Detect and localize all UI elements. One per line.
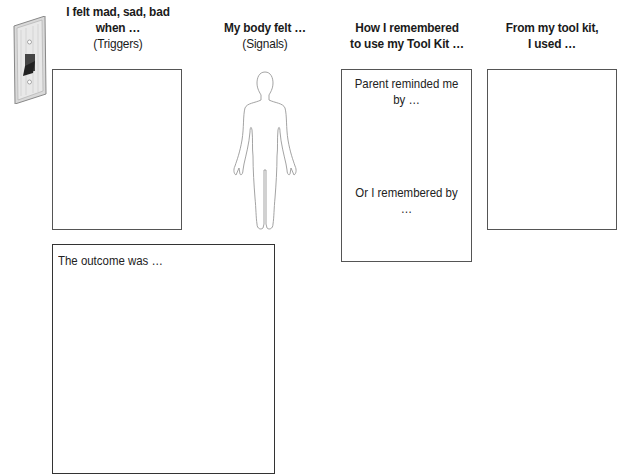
signals-subtitle: (Signals) xyxy=(208,36,322,52)
triggers-subtitle: (Triggers) xyxy=(60,36,176,52)
triggers-heading: I felt mad, sad, bad when … (Triggers) xyxy=(60,4,176,52)
light-switch-icon xyxy=(12,16,48,104)
tools-used-box[interactable] xyxy=(487,69,617,230)
triggers-box[interactable] xyxy=(52,69,182,230)
outcome-prompt: The outcome was … xyxy=(58,253,163,269)
human-body-outline-icon[interactable] xyxy=(225,70,305,232)
parent-reminded-prompt: Parent reminded me by … xyxy=(350,76,464,108)
outcome-box[interactable]: The outcome was … xyxy=(52,244,275,474)
remembered-box[interactable]: Parent reminded me by … Or I remembered … xyxy=(341,69,472,262)
signals-heading: My body felt … (Signals) xyxy=(208,20,322,52)
remembered-heading: How I remembered to use my Tool Kit … xyxy=(343,20,471,52)
tools-used-heading: From my tool kit, I used … xyxy=(489,20,616,52)
or-remembered-prompt: Or I remembered by … xyxy=(350,185,464,217)
